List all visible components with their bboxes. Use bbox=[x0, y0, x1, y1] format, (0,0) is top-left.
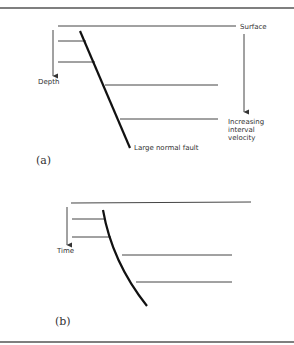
panel-a: Surface Depth Large normal fault Increas… bbox=[36, 23, 267, 167]
velocity-label-line-2: interval bbox=[228, 126, 255, 134]
panel-a-label: (a) bbox=[36, 154, 51, 167]
velocity-label-line-1: Increasing bbox=[228, 118, 264, 126]
panel-b-label: (b) bbox=[55, 315, 71, 328]
surface-label: Surface bbox=[240, 23, 267, 31]
top-reflector-line bbox=[71, 202, 251, 203]
fault-label: Large normal fault bbox=[134, 144, 199, 152]
velocity-label-line-3: velocity bbox=[228, 134, 255, 142]
normal-fault-line bbox=[80, 31, 130, 148]
fault-diagram: Surface Depth Large normal fault Increas… bbox=[0, 0, 294, 345]
panel-b: Time (b) bbox=[55, 202, 251, 328]
curved-fault-line bbox=[103, 210, 147, 306]
depth-label: Depth bbox=[38, 78, 59, 86]
time-label: Time bbox=[56, 247, 74, 255]
